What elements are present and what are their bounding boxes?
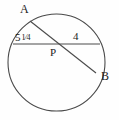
segment-length-right: 4 xyxy=(73,31,79,42)
geometry-figure: A B P 51⁄4 4 xyxy=(0,0,119,120)
diagonal-chord-AB xyxy=(30,21,96,73)
point-label-b: B xyxy=(101,70,109,82)
segment-length-left-whole: 5 xyxy=(15,31,21,43)
segment-length-left: 51⁄4 xyxy=(15,32,30,43)
circle-outline xyxy=(8,14,105,111)
segment-length-left-denominator: 4 xyxy=(26,33,30,42)
geometry-diagram xyxy=(0,0,119,120)
point-label-a: A xyxy=(20,3,29,15)
point-label-p: P xyxy=(50,47,56,58)
